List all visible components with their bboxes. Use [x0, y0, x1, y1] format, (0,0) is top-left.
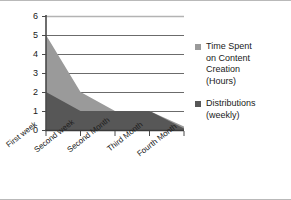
legend-swatch-icon-time-spent	[195, 44, 201, 50]
legend-swatch-icon-distributions	[195, 101, 201, 107]
y-tick-label-6: 6	[24, 12, 38, 21]
chart-legend: Time Spent on Content Creation (Hours) D…	[195, 41, 291, 129]
legend-label-time-spent-line-4: (Hours)	[206, 76, 291, 88]
legend-label-distributions-line-2: (weekly)	[206, 110, 291, 122]
legend-entry-distributions[interactable]: Distributions (weekly)	[195, 98, 291, 121]
area-chart: 6 5 4 3 2 1 0 First week Second week Sec…	[0, 0, 291, 200]
legend-label-time-spent-line-3: Creation	[206, 64, 291, 76]
legend-entry-time-spent[interactable]: Time Spent on Content Creation (Hours)	[195, 41, 291, 87]
y-tick-label-4: 4	[24, 50, 38, 59]
y-tick-label-1: 1	[24, 107, 38, 116]
legend-label-time-spent-line-2: on Content	[206, 53, 291, 65]
legend-label-distributions-line-1: Distributions	[206, 98, 291, 110]
legend-label-time-spent-line-1: Time Spent	[206, 41, 291, 53]
y-tick-label-5: 5	[24, 31, 38, 40]
y-tick-label-2: 2	[24, 88, 38, 97]
y-tick-label-3: 3	[24, 69, 38, 78]
